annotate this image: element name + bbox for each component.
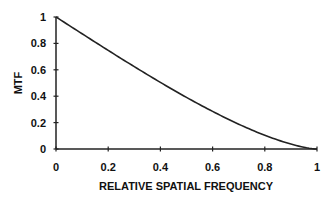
- x-axis-title: RELATIVE SPATIAL FREQUENCY: [99, 180, 274, 192]
- x-tick-label: 0.4: [153, 161, 169, 173]
- y-tick-label: 0.4: [31, 90, 47, 102]
- y-tick-label: 0: [40, 143, 46, 155]
- y-tick-label: 0.6: [31, 64, 46, 76]
- y-tick-label: 1: [40, 11, 46, 23]
- x-tick-label: 0.2: [101, 161, 116, 173]
- y-axis-title: MTF: [12, 71, 24, 94]
- y-tick-label: 0.8: [31, 37, 46, 49]
- x-tick-label: 0.6: [205, 161, 220, 173]
- x-tick-label: 0.8: [257, 161, 272, 173]
- y-tick-label: 0.2: [31, 117, 46, 129]
- ticks: [54, 17, 318, 152]
- mtf-curve: [56, 17, 317, 149]
- x-tick-label: 1: [314, 161, 320, 173]
- x-tick-label: 0: [53, 161, 59, 173]
- mtf-chart: 00.20.40.60.8100.20.40.60.81 MTF RELATIV…: [0, 0, 329, 204]
- axes: [56, 17, 317, 149]
